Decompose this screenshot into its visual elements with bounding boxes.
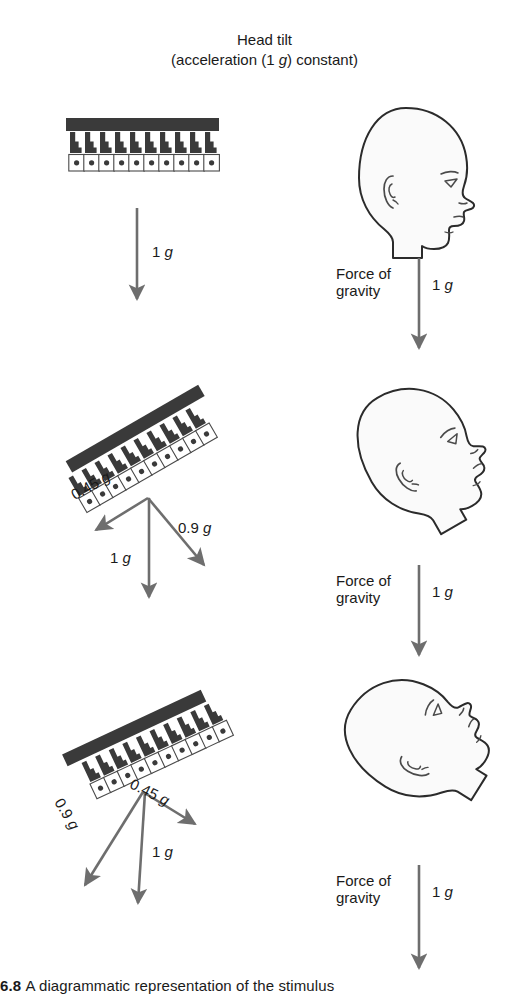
figure-title-line2: (acceleration (1 g) constant) <box>0 50 529 70</box>
label-force-of-gravity-panel1: Force of gravity <box>336 265 391 299</box>
label-force-of-gravity-panel2: Force of gravity <box>336 572 391 606</box>
label-shear-045g-panel2: 0.45 g <box>68 468 113 503</box>
figure-caption: 6.8 A diagrammatic representation of the… <box>0 977 529 994</box>
figure-title: Head tilt (acceleration (1 g) constant) <box>0 30 529 70</box>
otolithic-membrane <box>66 118 219 131</box>
caption-text: A diagrammatic representation of the sti… <box>25 977 334 994</box>
label-force-of-gravity-panel3: Force of gravity <box>336 872 391 906</box>
title-line2-post: ) constant) <box>287 51 358 68</box>
hair-cell-row <box>69 132 220 171</box>
label-fog-1g-panel1: 1 g <box>432 276 453 293</box>
otolithic-membrane <box>62 690 206 766</box>
head-upright <box>359 108 474 258</box>
label-gravity-1g-panel3: 1 g <box>152 843 173 860</box>
otolith-macula-upright <box>66 118 219 171</box>
vector-normal-09g-panel3 <box>85 792 143 885</box>
label-gravity-1g-panel2: 1 g <box>110 549 131 566</box>
title-line2-g: g <box>279 51 287 68</box>
label-fog-1g-panel3: 1 g <box>432 883 453 900</box>
label-gravity-1g-panel1: 1 g <box>152 243 173 260</box>
vector-shear-045g-panel2 <box>96 498 148 530</box>
label-shear-045g-panel3: 0.45 g <box>128 775 173 809</box>
head-tilted-forward <box>326 652 514 829</box>
caption-figure-number: 6.8 <box>0 977 21 994</box>
figure-head-tilt: Head tilt (acceleration (1 g) constant) <box>0 0 529 1000</box>
otolithic-membrane <box>66 385 205 473</box>
label-normal-09g-panel3: 0.9 g <box>51 795 83 832</box>
hair-cell-row <box>67 403 217 512</box>
head-tilted-back <box>337 364 512 551</box>
label-normal-09g-panel2: 0.9 g <box>178 519 211 536</box>
vector-gravity-1g-panel3 <box>138 792 145 903</box>
panel-tilted-back <box>59 364 511 655</box>
panel-tilted-forward <box>62 652 514 968</box>
panel-upright <box>66 108 474 348</box>
title-line2-pre: (acceleration (1 <box>171 51 279 68</box>
figure-title-line1: Head tilt <box>0 30 529 50</box>
hair-cell-row <box>80 700 233 799</box>
label-fog-1g-panel2: 1 g <box>432 583 453 600</box>
